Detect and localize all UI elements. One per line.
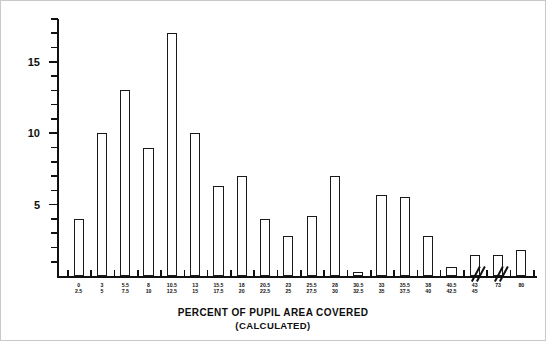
histogram-bar bbox=[120, 90, 130, 276]
y-axis-major-tick: 15 bbox=[49, 61, 58, 63]
x-axis-tick-label-line: 22.5 bbox=[260, 288, 270, 294]
x-axis-tick-label-line: 2.5 bbox=[75, 288, 82, 294]
histogram-bar bbox=[74, 219, 84, 276]
x-axis-tick-label: 40.542.5 bbox=[446, 282, 456, 294]
x-axis-tick-label-line: 32.5 bbox=[353, 288, 363, 294]
x-axis-tick-label-line: 10 bbox=[146, 288, 152, 294]
x-axis-tick bbox=[137, 270, 139, 278]
histogram-bar bbox=[143, 148, 153, 277]
x-axis-tick-label-line: 27.5 bbox=[307, 288, 317, 294]
x-axis-tick-label-line: 30 bbox=[332, 288, 338, 294]
x-axis-tick-label: 3840 bbox=[425, 282, 431, 294]
y-axis-minor-tick bbox=[51, 261, 58, 263]
x-axis-tick bbox=[323, 270, 325, 278]
y-axis-minor-tick bbox=[51, 147, 58, 149]
x-axis-tick-label-line: 12.5 bbox=[167, 288, 177, 294]
x-axis-tick bbox=[417, 270, 419, 278]
x-axis-tick-label: 1820 bbox=[239, 282, 245, 294]
x-axis-tick-label: 25.527.5 bbox=[307, 282, 317, 294]
x-axis-tick-label: 15.517.5 bbox=[213, 282, 223, 294]
x-axis-tick bbox=[300, 270, 302, 278]
x-axis-tick-label: 1315 bbox=[192, 282, 198, 294]
y-axis-minor-tick bbox=[51, 18, 58, 20]
y-axis-minor-tick bbox=[51, 47, 58, 49]
x-axis-tick-label-line: 42.5 bbox=[446, 288, 456, 294]
histogram-bar bbox=[213, 186, 223, 276]
y-axis-tick-label: 10 bbox=[28, 127, 40, 139]
y-axis-minor-tick bbox=[51, 218, 58, 220]
histogram-figure: FREQUENCY (# INDIVIDUALS) 51015 02.5355.… bbox=[0, 0, 546, 341]
axis-break-mark bbox=[471, 264, 483, 280]
histogram-bar bbox=[446, 267, 456, 276]
histogram-bar bbox=[237, 176, 247, 276]
x-axis-tick-label: 02.5 bbox=[75, 282, 82, 294]
x-axis-tick-label: 35.537.5 bbox=[400, 282, 410, 294]
x-axis-tick bbox=[160, 270, 162, 278]
x-axis-tick bbox=[510, 270, 512, 278]
x-axis-tick bbox=[277, 270, 279, 278]
x-axis-tick-label: 73 bbox=[495, 282, 501, 288]
histogram-bar bbox=[97, 133, 107, 276]
x-axis-tick-label-line: 80 bbox=[518, 282, 524, 288]
x-axis-tick bbox=[67, 270, 69, 278]
x-axis-tick-label-line: 40 bbox=[425, 288, 431, 294]
y-axis-minor-tick bbox=[51, 175, 58, 177]
histogram-bar bbox=[516, 250, 526, 276]
x-axis-tick bbox=[253, 270, 255, 278]
histogram-bar bbox=[283, 236, 293, 276]
y-axis-minor-tick bbox=[51, 247, 58, 249]
x-axis-tick bbox=[370, 270, 372, 278]
x-axis-tick-label: 4345 bbox=[472, 282, 478, 294]
y-axis-line bbox=[57, 19, 59, 278]
y-axis-minor-tick bbox=[51, 104, 58, 106]
x-axis-tick bbox=[230, 270, 232, 278]
histogram-bar bbox=[400, 197, 410, 276]
x-axis-tick-label-line: 15 bbox=[192, 288, 198, 294]
x-axis-tick-label-line: 45 bbox=[472, 288, 478, 294]
x-axis-tick bbox=[114, 270, 116, 278]
x-axis-tick-label: 30.532.5 bbox=[353, 282, 363, 294]
x-axis-tick-label: 35 bbox=[100, 282, 103, 294]
x-axis-tick-label-line: 73 bbox=[495, 282, 501, 288]
histogram-bar bbox=[190, 133, 200, 276]
x-axis-tick bbox=[440, 270, 442, 278]
plot-area: 51015 02.5355.57.581010.512.5131515.517.… bbox=[57, 19, 537, 278]
histogram-bar bbox=[423, 236, 433, 276]
histogram-bar bbox=[330, 176, 340, 276]
histogram-bar bbox=[260, 219, 270, 276]
x-axis-tick bbox=[533, 270, 535, 278]
histogram-bar bbox=[307, 216, 317, 276]
x-axis-tick bbox=[393, 270, 395, 278]
y-axis-minor-tick bbox=[51, 90, 58, 92]
x-axis-tick-label: 10.512.5 bbox=[167, 282, 177, 294]
axis-break-mark bbox=[494, 264, 506, 280]
x-axis-tick bbox=[347, 270, 349, 278]
y-axis-tick-label: 15 bbox=[28, 56, 40, 68]
x-axis-tick-label-line: 17.5 bbox=[213, 288, 223, 294]
y-axis-minor-tick bbox=[51, 161, 58, 163]
x-axis-tick-label: 5.57.5 bbox=[122, 282, 129, 294]
x-axis-title-line1: PERCENT OF PUPIL AREA COVERED bbox=[178, 307, 369, 318]
x-axis-tick-label: 20.522.5 bbox=[260, 282, 270, 294]
x-axis-tick bbox=[184, 270, 186, 278]
x-axis-line bbox=[57, 276, 537, 278]
y-axis-minor-tick bbox=[51, 75, 58, 77]
x-axis-tick-label-line: 7.5 bbox=[122, 288, 129, 294]
histogram-bar bbox=[376, 195, 386, 276]
x-axis-tick-label-line: 5 bbox=[100, 288, 103, 294]
x-axis-tick-label: 80 bbox=[518, 282, 524, 288]
y-axis-minor-tick bbox=[51, 232, 58, 234]
y-axis-major-tick: 5 bbox=[49, 204, 58, 206]
histogram-bar bbox=[353, 272, 363, 276]
y-axis-major-tick: 10 bbox=[49, 132, 58, 134]
x-axis-tick-label-line: 35 bbox=[379, 288, 385, 294]
x-axis-tick-label: 3335 bbox=[379, 282, 385, 294]
x-axis-tick-label-line: 25 bbox=[285, 288, 291, 294]
y-axis-minor-tick bbox=[51, 32, 58, 34]
x-axis-tick bbox=[463, 270, 465, 278]
y-axis-minor-tick bbox=[51, 190, 58, 192]
x-axis-tick bbox=[90, 270, 92, 278]
histogram-bar bbox=[167, 33, 177, 276]
x-axis-tick-label-line: 37.5 bbox=[400, 288, 410, 294]
x-axis-tick bbox=[486, 270, 488, 278]
